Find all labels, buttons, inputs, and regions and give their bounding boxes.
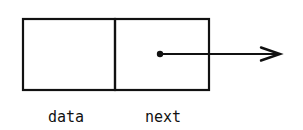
data-field-cell [23,19,115,90]
data-field-label: data [48,108,84,126]
linked-list-node-diagram: data next [0,0,303,130]
next-field-label: next [145,108,181,126]
next-pointer-arrow [157,48,280,61]
